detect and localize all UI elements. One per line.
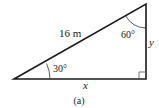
- angle-arc-30: [47, 64, 51, 80]
- hypotenuse-label: 16 m: [59, 27, 82, 39]
- figure-caption: (a): [73, 95, 84, 107]
- side-bottom-label: x: [82, 79, 88, 91]
- angle-top-label: 60°: [121, 29, 135, 40]
- angle-arc-60: [126, 16, 147, 29]
- triangle: [14, 4, 146, 79]
- side-right-label: y: [148, 36, 154, 48]
- angle-bottom-left-label: 30°: [53, 63, 67, 74]
- right-triangle-diagram: 16 m 60° 30° y x (a): [0, 0, 159, 108]
- right-angle-marker: [139, 72, 146, 79]
